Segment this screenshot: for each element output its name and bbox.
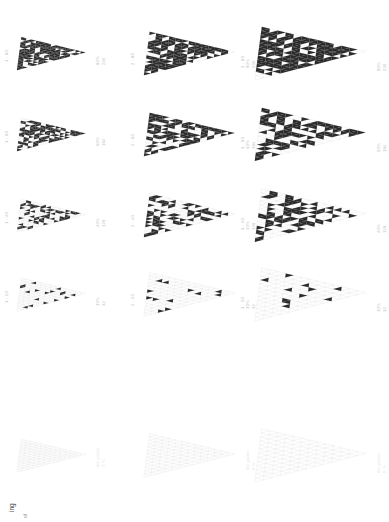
cell-right-value: 32 xyxy=(251,304,256,309)
cell-left-label: 2 - 80 xyxy=(130,53,135,65)
cell-right-label: 10% xyxy=(95,297,100,306)
mesh-background xyxy=(255,27,366,80)
cell-left-label: 1 - 10 xyxy=(4,292,9,304)
mesh-filled-cells xyxy=(144,113,235,157)
mesh-filled-cells xyxy=(144,32,228,76)
cell-right-value: 184 xyxy=(382,145,387,153)
mesh-svg xyxy=(0,0,389,522)
cell-left-label: 3 - 10 xyxy=(240,297,245,309)
mesh-background xyxy=(17,118,86,151)
cell-right-label: 80% xyxy=(376,62,381,71)
cell-right-value: 32 xyxy=(382,307,387,312)
mesh-background xyxy=(144,32,235,76)
cell-right-label: 40% xyxy=(245,221,250,230)
cell-left-label: 3 - 60 xyxy=(240,137,245,149)
cell-right-label: 60% xyxy=(245,140,250,149)
cell-right-label: tile points xyxy=(376,453,381,473)
cell-left-label: 1 - 60 xyxy=(4,132,9,144)
mesh-background xyxy=(144,434,235,478)
mesh-background xyxy=(144,113,235,157)
mesh-filled-cells xyxy=(20,282,75,309)
mesh-filled-cells xyxy=(17,37,86,70)
cell-left-label: 3 - 40 xyxy=(240,218,245,230)
cell-left-label: 3 - 80 xyxy=(240,56,245,68)
cell-right-value: 0 % xyxy=(251,462,256,470)
mesh-background xyxy=(17,439,86,472)
mesh-svg xyxy=(0,0,389,522)
cell-right-value: 128 xyxy=(382,226,387,234)
mesh-filled-cells xyxy=(260,273,342,308)
cell-right-value: 239 xyxy=(101,57,106,65)
axis-title: ing xyxy=(8,503,16,512)
mesh-svg xyxy=(0,0,389,522)
mesh-svg xyxy=(0,0,389,522)
mesh-svg xyxy=(0,0,389,522)
mesh-svg xyxy=(0,0,389,522)
mesh-background xyxy=(255,429,366,482)
cell-right-value: 239 xyxy=(382,64,387,72)
mesh-filled-cells xyxy=(17,120,86,151)
mesh-filled-cells xyxy=(255,108,366,161)
cell-right-label: 80% xyxy=(245,59,250,68)
mesh-svg xyxy=(0,0,389,522)
mesh-svg xyxy=(0,0,389,522)
mesh-svg xyxy=(0,0,389,522)
axis-subtitle: ol xyxy=(22,514,28,518)
mesh-filled-cells xyxy=(17,200,80,229)
cell-right-label: 60% xyxy=(376,143,381,152)
cell-right-label: 10% xyxy=(245,300,250,309)
cell-right-value: 184 xyxy=(101,138,106,146)
cell-left-label: 2 - 60 xyxy=(130,134,135,146)
cell-right-value: 32 xyxy=(101,301,106,306)
cell-right-value: 128 xyxy=(101,219,106,227)
cell-right-value: 0 % xyxy=(382,466,387,474)
mesh-svg xyxy=(0,0,389,522)
cell-right-label: tile points xyxy=(95,447,100,467)
mesh-svg xyxy=(0,0,389,522)
cell-right-value: 128 xyxy=(251,223,256,231)
triangle-mesh-grid: 1 - 8080%2392 - 8080%2393 - 8080%2391 - … xyxy=(0,0,389,522)
cell-right-label: 60% xyxy=(95,137,100,146)
mesh-svg xyxy=(0,0,389,522)
mesh-svg xyxy=(0,0,389,522)
mesh-background xyxy=(255,108,366,161)
mesh-background xyxy=(17,199,86,232)
cell-left-label: 1 - 40 xyxy=(4,213,9,225)
cell-right-value: 239 xyxy=(251,61,256,69)
cell-right-label: 40% xyxy=(95,218,100,227)
mesh-background xyxy=(17,37,86,70)
mesh-filled-cells xyxy=(255,191,357,242)
mesh-filled-cells xyxy=(144,195,228,237)
mesh-background xyxy=(255,268,366,321)
cell-right-value: 184 xyxy=(251,142,256,150)
mesh-background xyxy=(17,278,86,311)
cell-right-label: 40% xyxy=(376,224,381,233)
cell-right-label: 10% xyxy=(376,303,381,312)
mesh-background xyxy=(255,189,366,242)
cell-right-value: 0 % xyxy=(101,459,106,467)
mesh-background xyxy=(144,194,235,238)
mesh-svg xyxy=(0,0,389,522)
cell-left-label: 2 - 40 xyxy=(130,215,135,227)
cell-right-label: 80% xyxy=(95,56,100,65)
mesh-filled-cells xyxy=(146,279,222,313)
cell-left-label: 1 - 80 xyxy=(4,51,9,63)
cell-right-label: tile points xyxy=(245,450,250,470)
mesh-filled-cells xyxy=(256,27,358,76)
mesh-svg xyxy=(0,0,389,522)
mesh-background xyxy=(144,273,235,317)
cell-left-label: 2 - 10 xyxy=(130,294,135,306)
